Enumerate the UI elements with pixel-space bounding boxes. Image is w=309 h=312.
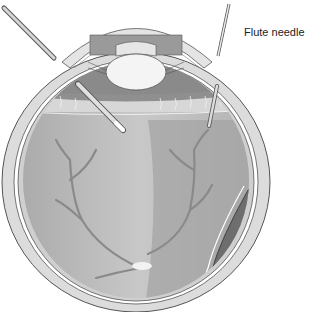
optic-disc: [132, 262, 152, 270]
left-cannula: [4, 8, 54, 58]
eye-diagram: [0, 0, 309, 312]
flute-needle-label: Flute needle: [244, 26, 305, 38]
lens: [106, 54, 166, 90]
